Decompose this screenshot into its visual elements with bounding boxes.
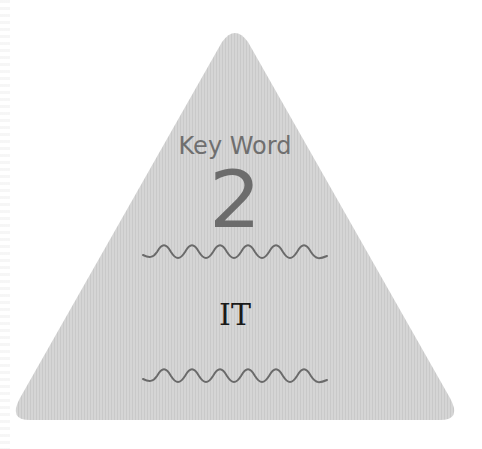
key-word-number: 2 (0, 158, 482, 242)
key-word-term: IT (0, 298, 470, 332)
